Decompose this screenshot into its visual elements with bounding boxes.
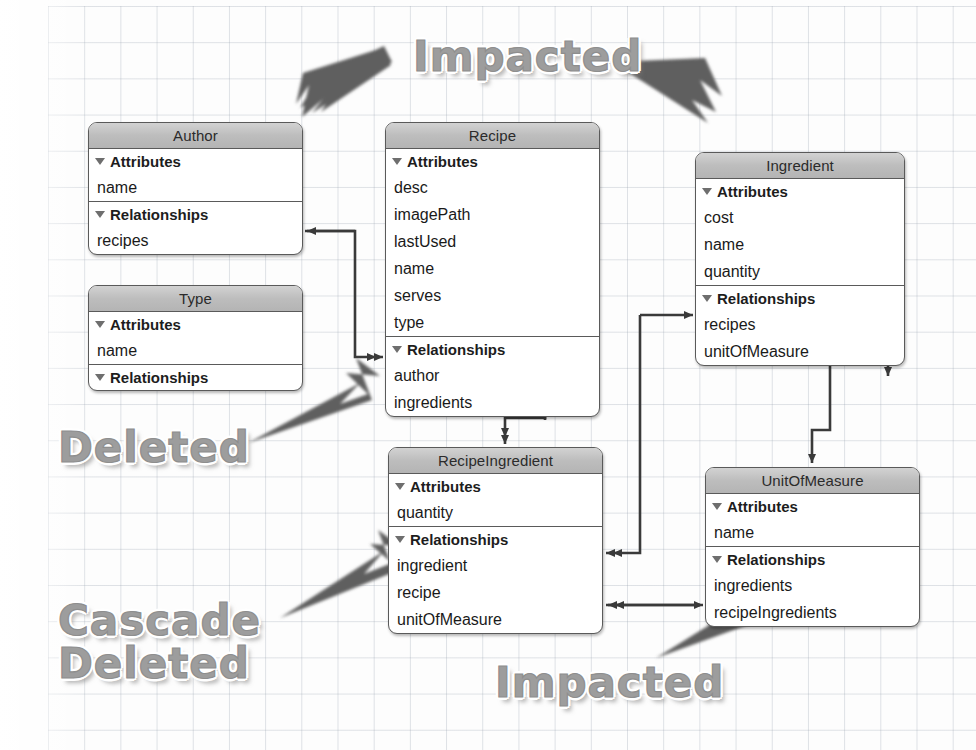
entity-row[interactable]: quantity [696, 258, 904, 285]
disclosure-triangle-icon[interactable] [395, 536, 405, 543]
section-header-attributes[interactable]: Attributes [89, 149, 302, 174]
entity-row[interactable]: name [89, 337, 302, 364]
entity-row[interactable]: author [386, 362, 599, 389]
annotation-impacted-top: Impacted [413, 36, 642, 79]
entity-recipeingredient[interactable]: RecipeIngredientAttributesquantityRelati… [388, 447, 603, 634]
section-header-attributes[interactable]: Attributes [389, 474, 602, 499]
entity-row[interactable]: imagePath [386, 201, 599, 228]
entity-author[interactable]: AuthorAttributesnameRelationshipsrecipes [88, 122, 303, 255]
disclosure-triangle-icon[interactable] [702, 295, 712, 302]
disclosure-triangle-icon[interactable] [392, 346, 402, 353]
entity-row[interactable]: name [386, 255, 599, 282]
section-header-relationships[interactable]: Relationships [706, 547, 919, 572]
entity-row[interactable]: cost [696, 204, 904, 231]
section-relationships: Relationships [89, 364, 302, 390]
entity-row[interactable]: name [706, 519, 919, 546]
disclosure-triangle-icon[interactable] [95, 321, 105, 328]
disclosure-triangle-icon[interactable] [392, 158, 402, 165]
section-header-attributes[interactable]: Attributes [89, 312, 302, 337]
entity-row[interactable]: quantity [389, 499, 602, 526]
disclosure-triangle-icon[interactable] [712, 556, 722, 563]
entity-row[interactable]: recipe [389, 579, 602, 606]
diagram-canvas: AuthorAttributesnameRelationshipsrecipes… [0, 0, 976, 750]
section-header-attributes[interactable]: Attributes [696, 179, 904, 204]
annotation-deleted: Deleted [58, 427, 250, 470]
section-header-relationships[interactable]: Relationships [389, 527, 602, 552]
section-header-relationships[interactable]: Relationships [696, 286, 904, 311]
section-attributes: Attributesname [706, 494, 919, 546]
section-attributes: Attributesname [89, 312, 302, 364]
disclosure-triangle-icon[interactable] [395, 483, 405, 490]
entity-title-author[interactable]: Author [89, 123, 302, 149]
entity-title-recipe[interactable]: Recipe [386, 123, 599, 149]
section-attributes: Attributesquantity [389, 474, 602, 526]
section-header-relationships[interactable]: Relationships [386, 337, 599, 362]
section-header-relationships[interactable]: Relationships [89, 365, 302, 390]
disclosure-triangle-icon[interactable] [95, 158, 105, 165]
entity-row[interactable]: ingredients [706, 572, 919, 599]
entity-row[interactable]: recipeIngredients [706, 599, 919, 626]
section-header-label: Attributes [727, 498, 798, 515]
entity-ingredient[interactable]: IngredientAttributescostnamequantityRela… [695, 152, 905, 366]
annotation-impacted-bottom: Impacted [495, 662, 724, 705]
section-attributes: AttributesdescimagePathlastUsednameserve… [386, 149, 599, 336]
disclosure-triangle-icon[interactable] [95, 374, 105, 381]
section-relationships: RelationshipsingredientsrecipeIngredient… [706, 546, 919, 626]
entity-type[interactable]: TypeAttributesnameRelationships [88, 285, 303, 391]
section-header-label: Attributes [110, 153, 181, 170]
section-header-label: Attributes [410, 478, 481, 495]
section-header-label: Attributes [407, 153, 478, 170]
arrow-impacted-author [296, 49, 391, 117]
section-relationships: RelationshipsrecipesunitOfMeasure [696, 285, 904, 365]
entity-row[interactable]: name [696, 231, 904, 258]
disclosure-triangle-icon[interactable] [702, 188, 712, 195]
section-header-label: Relationships [410, 531, 508, 548]
section-header-label: Relationships [407, 341, 505, 358]
entity-row[interactable]: recipes [696, 311, 904, 338]
section-header-label: Attributes [717, 183, 788, 200]
arrow-cascade-deleted [280, 530, 400, 618]
entity-recipe[interactable]: RecipeAttributesdescimagePathlastUsednam… [385, 122, 600, 417]
entity-row[interactable]: ingredient [389, 552, 602, 579]
section-header-attributes[interactable]: Attributes [386, 149, 599, 174]
section-header-label: Relationships [727, 551, 825, 568]
arrow-impacted-author-body [300, 46, 392, 113]
entity-row[interactable]: unitOfMeasure [389, 606, 602, 633]
section-header-label: Attributes [110, 316, 181, 333]
entity-row[interactable]: lastUsed [386, 228, 599, 255]
section-header-label: Relationships [110, 206, 208, 223]
entity-row[interactable]: name [89, 174, 302, 201]
section-header-relationships[interactable]: Relationships [89, 202, 302, 227]
entity-row[interactable]: unitOfMeasure [696, 338, 904, 365]
section-attributes: Attributescostnamequantity [696, 179, 904, 285]
entity-row[interactable]: type [386, 309, 599, 336]
disclosure-triangle-icon[interactable] [712, 503, 722, 510]
section-relationships: RelationshipsingredientrecipeunitOfMeasu… [389, 526, 602, 633]
section-header-attributes[interactable]: Attributes [706, 494, 919, 519]
entity-title-recipeingredient[interactable]: RecipeIngredient [389, 448, 602, 474]
entity-title-unitofmeasure[interactable]: UnitOfMeasure [706, 468, 919, 494]
entity-row[interactable]: ingredients [386, 389, 599, 416]
entity-unitofmeasure[interactable]: UnitOfMeasureAttributesnameRelationships… [705, 467, 920, 627]
disclosure-triangle-icon[interactable] [95, 211, 105, 218]
section-header-label: Relationships [717, 290, 815, 307]
section-attributes: Attributesname [89, 149, 302, 201]
entity-title-ingredient[interactable]: Ingredient [696, 153, 904, 179]
section-relationships: Relationshipsauthoringredients [386, 336, 599, 416]
entity-row[interactable]: serves [386, 282, 599, 309]
section-header-label: Relationships [110, 369, 208, 386]
entity-title-type[interactable]: Type [89, 286, 302, 312]
annotation-cascade-deleted: Cascade Deleted [58, 600, 261, 686]
entity-row[interactable]: recipes [89, 227, 302, 254]
entity-row[interactable]: desc [386, 174, 599, 201]
section-relationships: Relationshipsrecipes [89, 201, 302, 254]
